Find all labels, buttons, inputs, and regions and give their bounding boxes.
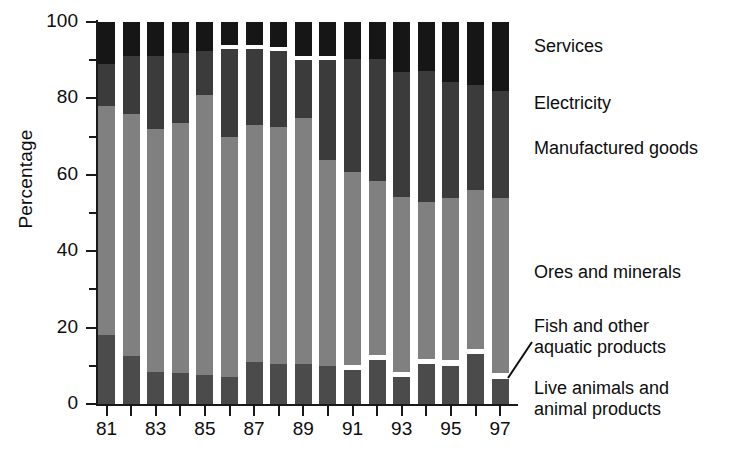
bar-segment-services: [442, 22, 459, 82]
bar-segment-live-animals: [246, 362, 263, 404]
bar-82[interactable]: [123, 22, 140, 404]
bar-segment-manufactured: [369, 59, 386, 181]
bar-segment-fish: [344, 365, 361, 370]
x-tick: [327, 405, 329, 416]
x-tick: [155, 405, 157, 416]
y-tick-minor: [89, 212, 97, 214]
bar-segment-manufactured: [344, 59, 361, 172]
bar-segment-live-animals: [270, 364, 287, 404]
bar-segment-services: [319, 22, 336, 56]
y-tick-label: 40: [0, 239, 78, 261]
bar-93[interactable]: [393, 22, 410, 404]
bar-segment-live-animals: [467, 354, 484, 404]
bar-segment-live-animals: [319, 366, 336, 404]
bar-segment-services: [246, 22, 263, 45]
y-tick-label: 20: [0, 316, 78, 338]
bar-segment-electricity: [221, 45, 238, 49]
bar-segment-ores: [369, 181, 386, 355]
bar-segment-live-animals: [221, 377, 238, 404]
y-tick-major: [86, 403, 97, 405]
bar-83[interactable]: [147, 22, 164, 404]
bar-87[interactable]: [246, 22, 263, 404]
plot-area: [98, 22, 516, 404]
bar-segment-manufactured: [418, 71, 435, 203]
bar-segment-ores: [467, 190, 484, 349]
x-tick-label: 93: [382, 418, 422, 440]
bar-segment-services: [221, 22, 238, 45]
bar-segment-live-animals: [369, 360, 386, 404]
legend-label-services: Services: [534, 36, 603, 57]
x-tick-label: 89: [283, 418, 323, 440]
bar-segment-manufactured: [98, 64, 115, 106]
x-tick: [352, 405, 354, 416]
bar-segment-fish: [393, 372, 410, 377]
bar-segment-manufactured: [492, 91, 509, 198]
bar-segment-services: [123, 22, 140, 56]
bar-segment-manufactured: [172, 53, 189, 124]
bar-segment-fish: [369, 355, 386, 360]
y-tick-label: 60: [0, 163, 78, 185]
bar-95[interactable]: [442, 22, 459, 404]
bar-84[interactable]: [172, 22, 189, 404]
bar-segment-electricity: [246, 45, 263, 49]
bar-segment-ores: [295, 118, 312, 364]
x-axis-line: [96, 404, 518, 406]
y-tick-label: 100: [0, 10, 78, 32]
bar-segment-live-animals: [98, 335, 115, 404]
x-tick: [302, 405, 304, 416]
x-tick: [425, 405, 427, 416]
legend-label-manufactured-goods: Manufactured goods: [534, 138, 698, 159]
bar-86[interactable]: [221, 22, 238, 404]
bar-segment-ores: [246, 125, 263, 362]
bar-segment-manufactured: [393, 72, 410, 196]
y-tick-minor: [89, 136, 97, 138]
x-tick: [179, 405, 181, 416]
bar-88[interactable]: [270, 22, 287, 404]
x-tick: [376, 405, 378, 416]
x-tick: [499, 405, 501, 416]
bar-segment-manufactured: [246, 49, 263, 125]
y-tick-major: [86, 250, 97, 252]
stacked-bar-chart: Percentage 020406080100 8183858789919395…: [0, 0, 741, 451]
bar-segment-services: [492, 22, 509, 91]
bar-segment-services: [270, 22, 287, 47]
bar-segment-manufactured: [442, 82, 459, 199]
x-tick: [204, 405, 206, 416]
y-tick-label: 0: [0, 392, 78, 414]
bar-81[interactable]: [98, 22, 115, 404]
x-tick: [475, 405, 477, 416]
bar-segment-live-animals: [442, 366, 459, 404]
bar-segment-ores: [344, 172, 361, 365]
bar-segment-services: [393, 22, 410, 72]
bar-segment-services: [196, 22, 213, 51]
bar-89[interactable]: [295, 22, 312, 404]
bar-segment-live-animals: [492, 379, 509, 404]
bar-96[interactable]: [467, 22, 484, 404]
legend-label-fish: Fish and other aquatic products: [534, 316, 666, 358]
bar-segment-ores: [196, 95, 213, 376]
bar-segment-services: [147, 22, 164, 56]
bar-segment-ores: [492, 198, 509, 374]
x-tick-label: 95: [431, 418, 471, 440]
bar-segment-services: [98, 22, 115, 64]
bar-92[interactable]: [369, 22, 386, 404]
bar-segment-live-animals: [123, 356, 140, 404]
bar-segment-ores: [98, 106, 115, 335]
bar-97[interactable]: [492, 22, 509, 404]
bar-segment-ores: [442, 198, 459, 360]
bar-90[interactable]: [319, 22, 336, 404]
bar-segment-fish: [492, 373, 509, 379]
bar-94[interactable]: [418, 22, 435, 404]
bar-segment-ores: [270, 127, 287, 364]
bar-91[interactable]: [344, 22, 361, 404]
x-tick: [106, 405, 108, 416]
x-tick: [253, 405, 255, 416]
bar-segment-electricity: [270, 47, 287, 51]
bar-segment-fish: [442, 360, 459, 365]
bar-segment-electricity: [295, 56, 312, 60]
bar-segment-live-animals: [196, 375, 213, 404]
x-tick-label: 91: [333, 418, 373, 440]
bar-segment-services: [467, 22, 484, 85]
bar-85[interactable]: [196, 22, 213, 404]
x-tick: [130, 405, 132, 416]
